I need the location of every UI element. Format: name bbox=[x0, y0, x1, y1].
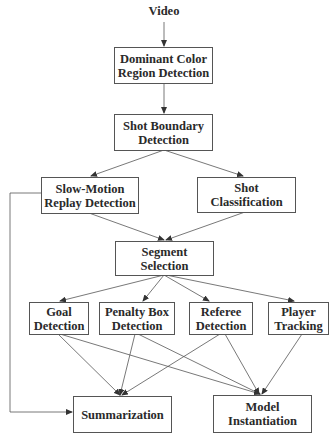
node-player-tracking: Player Tracking bbox=[268, 302, 329, 335]
video-input-label: Video bbox=[140, 4, 188, 19]
edge-slowmotion-segment bbox=[89, 213, 164, 240]
edge-segment-player bbox=[166, 275, 294, 301]
node-goal-detection-label: Goal Detection bbox=[34, 305, 85, 333]
edge-player-model bbox=[262, 334, 302, 394]
node-slow-motion: Slow-Motion Replay Detection bbox=[41, 177, 139, 214]
node-model-instantiation-label: Model Instantiation bbox=[228, 400, 297, 428]
node-shot-classification-label: Shot Classification bbox=[210, 181, 282, 209]
node-penalty-box-label: Penalty Box Detection bbox=[105, 305, 169, 333]
node-player-tracking-label: Player Tracking bbox=[274, 305, 322, 333]
node-summarization: Summarization bbox=[73, 396, 172, 433]
node-shot-boundary-label: Shot Boundary Detection bbox=[123, 119, 204, 147]
node-shot-classification: Shot Classification bbox=[197, 177, 296, 213]
edge-segment-penalty bbox=[143, 275, 164, 301]
node-segment-selection-label: Segment Selection bbox=[141, 245, 189, 273]
node-referee-detection: Referee Detection bbox=[189, 302, 253, 335]
node-summarization-label: Summarization bbox=[81, 408, 164, 422]
edge-goal-summarization bbox=[58, 334, 120, 395]
node-goal-detection: Goal Detection bbox=[29, 302, 89, 335]
edge-penalty-summarization bbox=[120, 334, 135, 395]
edge-segment-goal bbox=[60, 275, 164, 301]
node-slow-motion-label: Slow-Motion Replay Detection bbox=[44, 182, 135, 210]
node-dominant-color-label: Dominant Color Region Detection bbox=[118, 52, 209, 80]
node-referee-detection-label: Referee Detection bbox=[196, 305, 247, 333]
node-dominant-color: Dominant Color Region Detection bbox=[114, 47, 213, 84]
edge-shotclass-segment bbox=[166, 212, 245, 240]
node-penalty-box: Penalty Box Detection bbox=[99, 302, 175, 335]
edge-referee-summarization bbox=[122, 334, 220, 395]
edge-boundary-shotclass bbox=[164, 150, 243, 176]
node-model-instantiation: Model Instantiation bbox=[213, 395, 312, 433]
node-shot-boundary: Shot Boundary Detection bbox=[114, 114, 213, 151]
node-segment-selection: Segment Selection bbox=[115, 241, 214, 276]
edge-boundary-slowmotion bbox=[91, 150, 164, 176]
